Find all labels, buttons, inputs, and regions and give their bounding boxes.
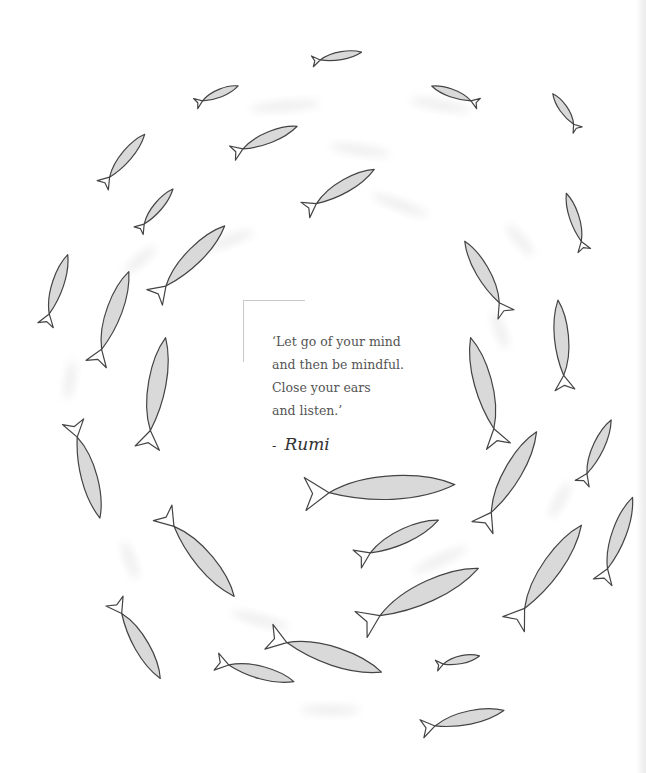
quote-line: Close your ears xyxy=(272,376,422,399)
water-shadow xyxy=(230,607,291,632)
water-shadow xyxy=(62,359,79,400)
fish-icon xyxy=(548,91,582,133)
fish-icon xyxy=(38,252,76,327)
water-shadow xyxy=(503,221,536,258)
quote-text: ‘Let go of your mind and then be mindful… xyxy=(272,330,422,422)
quote-line: and then be mindful. xyxy=(272,353,422,376)
water-shadow xyxy=(250,98,321,114)
fish-icon xyxy=(353,512,443,568)
fish-icon xyxy=(456,237,514,319)
fish-icon xyxy=(135,336,179,451)
fish-icon xyxy=(97,130,151,190)
fish-icon xyxy=(575,417,619,487)
signature-dash: - xyxy=(272,438,276,453)
water-shadow xyxy=(370,190,430,220)
quote-frame-horizontal xyxy=(243,300,305,301)
water-shadow xyxy=(121,243,158,276)
fish-icon xyxy=(547,299,575,390)
fish-icon xyxy=(593,494,642,585)
quote-line: ‘Let go of your mind xyxy=(272,330,422,353)
water-shadow xyxy=(546,480,575,520)
fish-icon xyxy=(194,81,241,108)
quote-line: and listen.’ xyxy=(272,399,422,422)
fish-icon xyxy=(458,335,511,450)
fish-icon xyxy=(153,505,242,605)
fish-icon xyxy=(301,162,379,217)
author-signature: Rumi xyxy=(284,434,329,454)
fish-icon xyxy=(106,596,168,684)
fish-icon xyxy=(304,470,456,511)
fish-icon xyxy=(230,120,301,161)
fish-icon xyxy=(147,219,233,305)
water-shadow xyxy=(330,141,391,159)
fish-icon xyxy=(134,185,178,234)
fish-icon xyxy=(214,653,296,691)
fish-icon xyxy=(435,651,480,671)
water-shadow xyxy=(300,705,360,715)
fish-icon xyxy=(503,518,593,631)
signature: -Rumi xyxy=(272,434,330,454)
fish-icon xyxy=(559,191,590,252)
fish-icon xyxy=(62,419,109,521)
fish-icon xyxy=(311,47,362,67)
fish-icon xyxy=(86,268,140,367)
fish-icon xyxy=(420,702,506,738)
quote-frame-vertical xyxy=(243,300,244,362)
water-shadow xyxy=(118,539,141,580)
